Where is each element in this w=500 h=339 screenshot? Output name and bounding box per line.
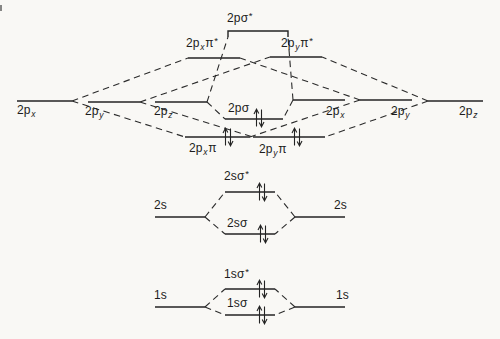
connector-1s-right-to-1s-sigma bbox=[275, 307, 295, 315]
diagram-lines bbox=[0, 0, 500, 339]
electron-pair-icon-2p-sigma bbox=[254, 109, 264, 127]
connector-2pz-right-to-2py-pi-star bbox=[322, 57, 428, 101]
mo-diagram: 2px 2py 2pz 2px 2py 2pz 2pσ* 2pxπ* 2pyπ*… bbox=[0, 0, 500, 339]
label-2px-pi: 2pxπ bbox=[189, 142, 217, 156]
label-1s-sigma-star: 1sσ* bbox=[224, 268, 249, 281]
label-2py-pi-star: 2pyπ* bbox=[281, 37, 313, 51]
label-1s-right: 1s bbox=[336, 289, 349, 302]
label-2py-left: 2py bbox=[85, 105, 104, 119]
label-2s-left: 2s bbox=[154, 199, 167, 212]
label-2s-right: 2s bbox=[334, 199, 347, 212]
connector-2py-left-to-2py-pi-star bbox=[140, 57, 270, 102]
label-2px-left: 2px bbox=[17, 104, 36, 118]
label-2p-sigma-star: 2pσ* bbox=[227, 12, 253, 25]
label-2py-pi: 2pyπ bbox=[259, 143, 287, 157]
connector-2s-left-to-2s-sigma-star bbox=[205, 192, 225, 217]
label-1s-left: 1s bbox=[154, 289, 167, 302]
connector-1s-left-to-1s-sigma bbox=[205, 307, 225, 315]
connector-2px-left-to-2px-pi-star bbox=[72, 58, 188, 101]
level-line-2p-sigma-star bbox=[228, 31, 288, 37]
connector-2s-right-to-2s-sigma bbox=[275, 217, 295, 234]
connector-2s-left-to-2s-sigma bbox=[205, 217, 225, 234]
label-2pz-right: 2pz bbox=[459, 105, 478, 119]
label-2px-pi-star: 2pxπ* bbox=[186, 37, 218, 51]
label-2px-right: 2px bbox=[326, 105, 345, 119]
label-2pz-left: 2pz bbox=[154, 105, 173, 119]
connector-2s-right-to-2s-sigma-star bbox=[275, 192, 295, 217]
connector-2py-right-to-2px-pi-star bbox=[240, 58, 360, 100]
connector-2px-right-to-2p-sigma bbox=[283, 100, 293, 119]
label-2s-sigma-star: 2sσ* bbox=[224, 170, 249, 183]
label-2p-sigma: 2pσ bbox=[228, 102, 249, 115]
connector-2pz-left-to-2p-sigma bbox=[207, 102, 225, 119]
connector-1s-right-to-1s-sigma-star bbox=[275, 289, 295, 307]
label-2py-right: 2py bbox=[391, 105, 410, 119]
label-2s-sigma: 2sσ bbox=[227, 217, 248, 230]
label-1s-sigma: 1sσ bbox=[227, 297, 248, 310]
connector-1s-left-to-1s-sigma-star bbox=[205, 289, 225, 307]
